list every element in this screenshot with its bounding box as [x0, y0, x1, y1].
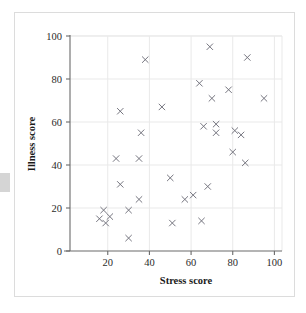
axes	[64, 35, 282, 251]
y-tick-label: 40	[52, 160, 63, 171]
data-point	[201, 123, 207, 129]
data-point	[136, 197, 142, 203]
data-point	[159, 104, 165, 110]
x-tick-label: 60	[186, 257, 197, 268]
data-point	[113, 156, 119, 162]
gridlines	[70, 36, 282, 251]
data-point	[167, 175, 173, 181]
x-tick-label: 80	[227, 257, 238, 268]
y-tick-label: 20	[52, 203, 63, 214]
x-axis-tick-labels: 20406080100	[103, 257, 283, 268]
y-tick-label: 60	[52, 117, 63, 128]
data-point	[169, 220, 175, 226]
scatter-plot: 20406080100 020406080100 Stress score Il…	[0, 0, 306, 313]
y-tick-label: 80	[52, 74, 63, 85]
x-tick-label: 40	[144, 257, 155, 268]
y-tick-label: 100	[46, 31, 62, 42]
data-point	[117, 108, 123, 114]
y-axis-tick-labels: 020406080100	[46, 31, 62, 257]
x-tick-label: 100	[267, 257, 283, 268]
data-point	[209, 95, 215, 101]
data-point	[261, 95, 267, 101]
data-point	[244, 55, 250, 61]
data-point	[142, 57, 148, 63]
x-tick-label: 20	[103, 257, 114, 268]
data-point	[138, 130, 144, 136]
x-axis-title: Stress score	[160, 275, 213, 286]
data-point	[199, 218, 205, 224]
data-point	[97, 216, 103, 222]
data-point	[197, 80, 203, 86]
data-point	[205, 184, 211, 190]
data-point	[238, 132, 244, 138]
data-point	[213, 130, 219, 136]
y-axis-title: Illness score	[26, 116, 37, 171]
tick-marks	[66, 36, 274, 255]
data-point-markers	[97, 44, 267, 241]
y-tick-label: 0	[57, 246, 62, 257]
data-point	[226, 87, 232, 93]
data-point	[126, 235, 132, 241]
data-point	[182, 197, 188, 203]
data-point	[136, 156, 142, 162]
data-point	[117, 181, 123, 187]
data-point	[207, 44, 213, 50]
